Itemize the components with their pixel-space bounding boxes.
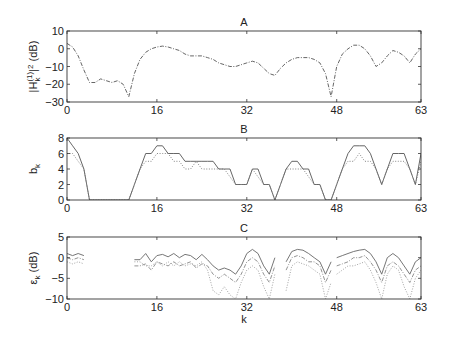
series-line-error-1-seg1 <box>134 249 275 274</box>
series-line-error-1-seg3 <box>337 249 421 274</box>
x-tick-label: 16 <box>151 104 163 116</box>
x-tick-label: 16 <box>151 202 163 214</box>
y-tick-label: −5 <box>51 272 64 284</box>
x-tick-label: 48 <box>331 301 343 313</box>
panel-c: C016324863−10−505εk (dB)k <box>27 222 427 325</box>
series-line-error-1-seg0 <box>67 254 84 256</box>
y-tick-label: −30 <box>45 96 64 108</box>
figure: A016324863−30−20−10010|Hk(1)|2 (dB) B016… <box>0 0 451 344</box>
y-tick-label: 0 <box>58 43 64 55</box>
series-line-allocation-2 <box>67 154 421 201</box>
y-axis-label: |Hk(1)|2 (dB) <box>25 41 42 93</box>
x-tick-label: 32 <box>241 301 253 313</box>
panel-title: B <box>240 123 247 135</box>
series-line-error-3-seg1 <box>134 262 275 299</box>
panel-b: B01632486302468bk <box>27 123 427 214</box>
y-tick-label: 6 <box>58 148 64 160</box>
axes-frame <box>67 31 421 102</box>
x-axis-label: k <box>241 313 247 325</box>
series-group <box>67 43 421 96</box>
series-line-error-2-seg1 <box>134 258 275 283</box>
y-tick-label: 0 <box>58 252 64 264</box>
x-tick-label: 0 <box>64 301 70 313</box>
x-tick-label: 63 <box>415 104 427 116</box>
panel-a: A016324863−30−20−10010|Hk(1)|2 (dB) <box>25 16 427 116</box>
x-tick-label: 48 <box>331 202 343 214</box>
x-tick-label: 0 <box>64 202 70 214</box>
y-tick-label: 0 <box>58 194 64 206</box>
series-group <box>67 249 421 299</box>
x-tick-label: 63 <box>415 301 427 313</box>
series-line-error-2-seg2 <box>286 256 331 283</box>
x-tick-label: 32 <box>241 104 253 116</box>
series-line-allocation-1 <box>67 138 421 200</box>
y-tick-label: 4 <box>58 163 64 175</box>
y-axis-label: εk (dB) <box>27 252 42 285</box>
x-tick-label: 63 <box>415 202 427 214</box>
series-line-response <box>67 43 421 96</box>
x-tick-label: 32 <box>241 202 253 214</box>
y-tick-label: −20 <box>45 78 64 90</box>
panel-title: A <box>240 16 248 28</box>
axes-frame <box>67 138 421 200</box>
axes-frame <box>67 237 421 299</box>
y-tick-label: 8 <box>58 132 64 144</box>
y-tick-label: −10 <box>45 293 64 305</box>
y-tick-label: 5 <box>58 231 64 243</box>
x-tick-label: 16 <box>151 301 163 313</box>
y-tick-label: 2 <box>58 179 64 191</box>
series-group <box>67 138 421 200</box>
y-axis-label: bk <box>27 163 42 174</box>
y-tick-label: 10 <box>52 25 64 37</box>
x-tick-label: 0 <box>64 104 70 116</box>
series-line-error-3-seg0 <box>67 262 84 264</box>
x-tick-label: 48 <box>331 104 343 116</box>
series-line-error-3-seg2 <box>286 262 331 299</box>
panel-title: C <box>240 222 248 234</box>
y-tick-label: −10 <box>45 61 64 73</box>
